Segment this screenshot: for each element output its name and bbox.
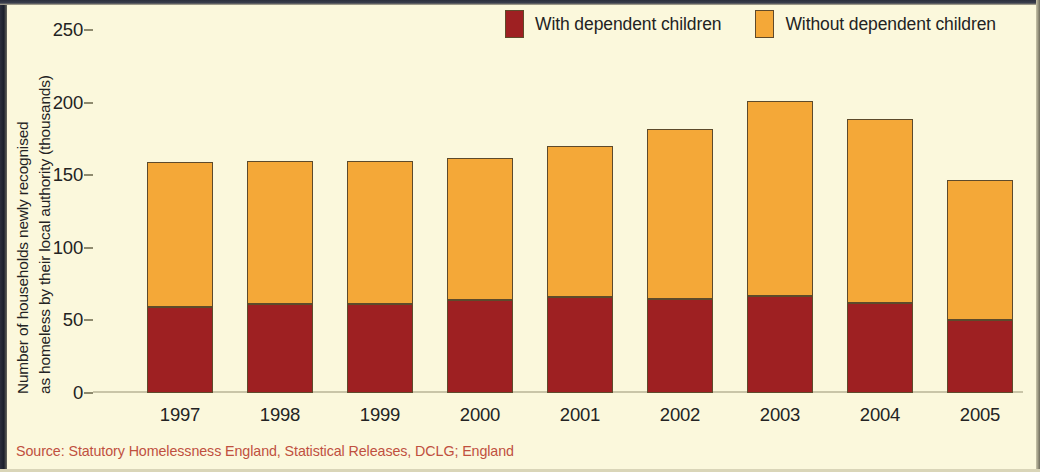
bar-segment-with-dependent-children xyxy=(947,320,1013,393)
bar-segment-with-dependent-children xyxy=(247,304,313,393)
source-note: Source: Statutory Homelessness England, … xyxy=(16,443,514,459)
x-axis-tick-label: 2004 xyxy=(847,404,913,426)
bar-segment-without-dependent-children xyxy=(447,158,513,300)
bar-segment-without-dependent-children xyxy=(547,146,613,297)
bar-segment-without-dependent-children xyxy=(847,119,913,303)
bar-2001 xyxy=(547,146,613,393)
bar-2004 xyxy=(847,119,913,393)
chart-figure: With dependent childrenWithout dependent… xyxy=(0,0,1040,472)
y-axis-tick-mark xyxy=(84,174,93,176)
figure-border-left xyxy=(0,0,7,472)
y-axis-tick-mark xyxy=(84,247,93,249)
x-axis-tick-label: 2003 xyxy=(747,404,813,426)
y-axis-title: Number of households newly recognised as… xyxy=(14,30,60,394)
x-axis-tick-label: 2000 xyxy=(447,404,513,426)
x-axis-tick-label: 2001 xyxy=(547,404,613,426)
y-axis-tick-label: 0 xyxy=(73,382,83,404)
y-axis-tick-mark xyxy=(84,102,93,104)
y-axis-title-line-2: as homeless by their local authority (th… xyxy=(36,75,54,394)
bar-segment-without-dependent-children xyxy=(947,180,1013,321)
x-axis-tick-label: 1997 xyxy=(147,404,213,426)
bar-2000 xyxy=(447,158,513,393)
bar-2002 xyxy=(647,129,713,393)
bar-1998 xyxy=(247,161,313,393)
y-axis-tick-label: 150 xyxy=(53,164,83,186)
bar-2005 xyxy=(947,180,1013,393)
figure-border-right xyxy=(1036,0,1040,472)
bar-1997 xyxy=(147,162,213,393)
bar-segment-with-dependent-children xyxy=(447,300,513,393)
figure-border-top xyxy=(0,0,1040,5)
bar-segment-with-dependent-children xyxy=(347,304,413,393)
bar-1999 xyxy=(347,161,413,393)
y-axis-tick-label: 100 xyxy=(53,237,83,259)
x-axis-tick-label: 1999 xyxy=(347,404,413,426)
bar-segment-with-dependent-children xyxy=(847,303,913,393)
bar-segment-with-dependent-children xyxy=(747,296,813,393)
y-axis-title-line-1: Number of households newly recognised xyxy=(14,122,32,395)
y-axis-tick-label: 50 xyxy=(63,309,83,331)
bar-segment-with-dependent-children xyxy=(647,299,713,393)
bar-segment-without-dependent-children xyxy=(347,161,413,305)
bar-segment-without-dependent-children xyxy=(147,162,213,307)
bar-segment-with-dependent-children xyxy=(147,307,213,393)
bar-2003 xyxy=(747,101,813,393)
bar-segment-with-dependent-children xyxy=(547,297,613,393)
x-axis-tick-label: 1998 xyxy=(247,404,313,426)
x-axis-tick-label: 2002 xyxy=(647,404,713,426)
x-axis-tick-label: 2005 xyxy=(947,404,1013,426)
bar-segment-without-dependent-children xyxy=(647,129,713,299)
y-axis-tick-mark xyxy=(84,29,93,31)
y-axis-tick-label: 250 xyxy=(53,19,83,41)
plot-area: 0501001502002501997199819992000200120022… xyxy=(93,30,1023,393)
bar-segment-without-dependent-children xyxy=(247,161,313,305)
y-axis-tick-label: 200 xyxy=(53,92,83,114)
y-axis-tick-mark xyxy=(84,392,93,394)
bar-segment-without-dependent-children xyxy=(747,101,813,296)
y-axis-tick-mark xyxy=(84,319,93,321)
